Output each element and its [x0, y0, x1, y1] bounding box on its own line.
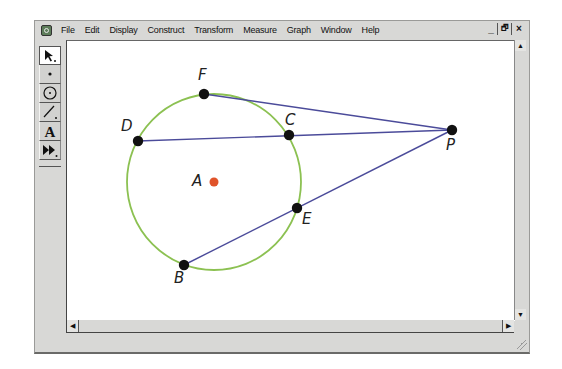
segment-dp[interactable] — [138, 130, 452, 141]
point-p[interactable] — [447, 125, 457, 135]
segment-bp[interactable] — [184, 130, 452, 265]
label-d[interactable]: D — [121, 117, 133, 135]
segment-fp[interactable] — [204, 94, 452, 130]
label-e[interactable]: E — [302, 210, 311, 228]
point-a[interactable] — [210, 178, 219, 187]
point-c[interactable] — [284, 130, 294, 140]
label-a[interactable]: A — [192, 172, 202, 190]
label-c[interactable]: C — [285, 111, 295, 129]
point-f[interactable] — [199, 89, 209, 99]
geometry-drawing — [0, 0, 562, 369]
point-e[interactable] — [292, 203, 302, 213]
label-f[interactable]: F — [198, 66, 207, 84]
label-p[interactable]: P — [446, 136, 455, 154]
label-b[interactable]: B — [174, 269, 184, 287]
point-d[interactable] — [133, 136, 143, 146]
